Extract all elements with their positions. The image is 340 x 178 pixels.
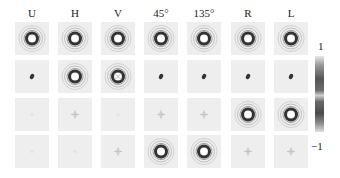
pattern-tile [15, 98, 49, 131]
column-header: 135° [187, 7, 221, 19]
column-header: H [58, 7, 92, 19]
column-header: 45° [144, 7, 178, 19]
pattern-tile [274, 60, 308, 93]
colorbar [315, 56, 324, 132]
pattern-tile [231, 98, 265, 131]
column-header: V [101, 7, 135, 19]
column-header: U [15, 7, 49, 19]
pattern-tile [231, 60, 265, 93]
pattern-tile [187, 60, 221, 93]
pattern-tile [58, 98, 92, 131]
pattern-tile [144, 60, 178, 93]
pattern-tile [144, 22, 178, 55]
pattern-tile [274, 22, 308, 55]
pattern-tile [274, 98, 308, 131]
pattern-tile [58, 22, 92, 55]
pattern-tile [187, 22, 221, 55]
pattern-tile [187, 98, 221, 131]
pattern-tile [101, 135, 135, 168]
figure: UHV45°135°RL1−1 [0, 0, 340, 178]
pattern-tile [15, 135, 49, 168]
column-header: R [231, 7, 265, 19]
pattern-tile [144, 135, 178, 168]
column-header: L [274, 7, 308, 19]
pattern-tile [144, 98, 178, 131]
pattern-tile [101, 98, 135, 131]
pattern-tile [15, 60, 49, 93]
pattern-tile [15, 22, 49, 55]
pattern-tile [101, 22, 135, 55]
pattern-tile [58, 60, 92, 93]
colorbar-min-label: −1 [311, 140, 323, 152]
pattern-tile [231, 135, 265, 168]
pattern-tile [187, 135, 221, 168]
pattern-tile [58, 135, 92, 168]
pattern-tile [231, 22, 265, 55]
pattern-tile [101, 60, 135, 93]
colorbar-max-label: 1 [318, 40, 324, 52]
pattern-tile [274, 135, 308, 168]
